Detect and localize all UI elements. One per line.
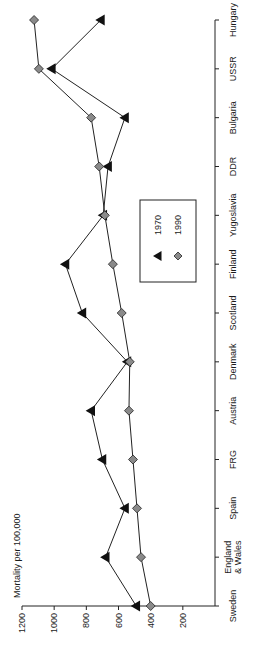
- category-label: Hungary: [228, 2, 238, 37]
- legend-label: 1990: [173, 215, 183, 235]
- category-label: Bulgaria: [228, 101, 238, 134]
- line-chart: 20040060080010001200 SwedenEngland& Wale…: [0, 0, 259, 666]
- category-label: England: [223, 541, 233, 574]
- value-tick-label: 200: [178, 613, 188, 628]
- triangle-marker-icon: [131, 601, 140, 612]
- legend: 19701990: [140, 200, 196, 282]
- value-tick-label: 400: [146, 613, 156, 628]
- legend-box: [140, 200, 196, 282]
- triangle-marker-icon: [100, 552, 109, 563]
- category-label: DDR: [228, 156, 238, 176]
- category-label: & Wales: [233, 540, 243, 574]
- category-label: Denmark: [228, 343, 238, 380]
- diamond-marker-icon: [30, 16, 39, 25]
- triangle-marker-icon: [46, 63, 55, 74]
- category-label: Yugoslavia: [228, 194, 238, 238]
- series-lines: [30, 15, 156, 612]
- series-line: [34, 20, 151, 606]
- category-axis-ticks: SwedenEngland& WalesSpainFRGAustriaDenma…: [215, 2, 243, 622]
- category-label: USSR: [228, 56, 238, 82]
- value-tick-label: 1000: [49, 613, 59, 633]
- diamond-marker-icon: [128, 455, 137, 464]
- diamond-marker-icon: [124, 406, 133, 415]
- triangle-marker-icon: [119, 503, 128, 514]
- diamond-marker-icon: [137, 553, 146, 562]
- legend-label: 1970: [153, 215, 163, 235]
- category-label: Austria: [228, 397, 238, 425]
- triangle-marker-icon: [60, 259, 69, 270]
- category-label: Finland: [228, 249, 238, 279]
- category-label: Sweden: [228, 590, 238, 623]
- value-tick-label: 800: [81, 613, 91, 628]
- diamond-marker-icon: [125, 357, 134, 366]
- value-axis-ticks: 20040060080010001200: [17, 606, 188, 633]
- value-axis-title: Mortality per 100,000: [12, 513, 22, 598]
- diamond-marker-icon: [100, 211, 109, 220]
- triangle-marker-icon: [86, 405, 95, 416]
- diamond-marker-icon: [117, 309, 126, 318]
- value-tick-label: 600: [114, 613, 124, 628]
- category-label: Scotland: [228, 295, 238, 330]
- series-1990: [30, 16, 156, 611]
- diamond-marker-icon: [146, 602, 155, 611]
- category-label: FRG: [228, 450, 238, 469]
- diamond-marker-icon: [108, 260, 117, 269]
- value-tick-label: 1200: [17, 613, 27, 633]
- diamond-marker-icon: [132, 504, 141, 513]
- category-label: Spain: [228, 497, 238, 520]
- diamond-marker-icon: [95, 162, 104, 171]
